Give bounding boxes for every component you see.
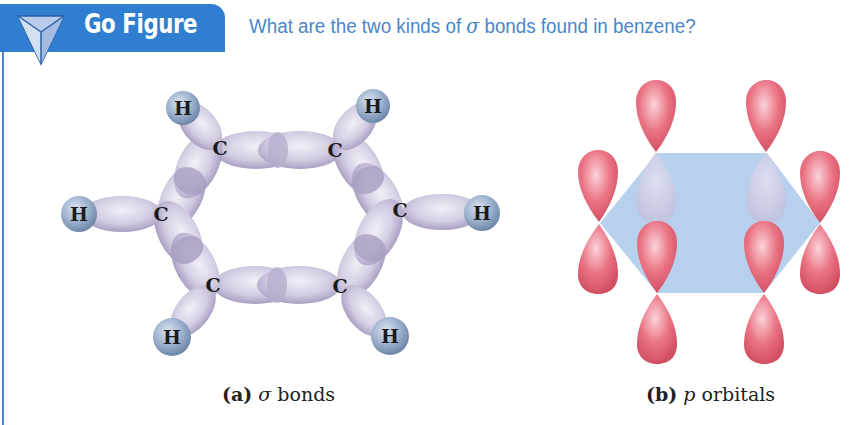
p-orbital-lobe	[637, 294, 677, 364]
carbon-label: C	[327, 139, 342, 161]
hydrogen-atom: H	[61, 196, 97, 232]
carbon-label: C	[153, 203, 168, 225]
svg-text:H: H	[381, 325, 399, 347]
hydrogen-atom: H	[356, 89, 390, 123]
p-orbital-lobe	[746, 80, 786, 152]
caption-b: (b) p orbitals	[646, 383, 775, 405]
svg-text:H: H	[174, 97, 192, 119]
carbon-label: C	[212, 137, 227, 159]
hydrogen-atom: H	[464, 195, 500, 231]
caption-a: (a) σ bonds	[222, 383, 335, 405]
cc-bonds	[144, 124, 414, 307]
caption-a-symbol: σ	[258, 383, 271, 405]
svg-text:H: H	[473, 202, 491, 224]
p-orbital-lobe	[636, 80, 676, 152]
hydrogen-atom: H	[166, 91, 200, 125]
p-orbital-lobe	[744, 294, 784, 364]
caption-b-symbol: p	[683, 383, 695, 405]
hydrogen-atom: H	[371, 317, 409, 355]
caption-b-letter: (b)	[646, 383, 677, 405]
carbon-label: C	[392, 199, 407, 221]
carbon-label: C	[205, 274, 220, 296]
carbon-label: C	[332, 275, 347, 297]
ch-bonds	[82, 94, 482, 345]
svg-text:H: H	[364, 95, 382, 117]
svg-text:H: H	[163, 326, 181, 348]
caption-a-text: bonds	[271, 383, 335, 405]
caption-b-text: orbitals	[695, 383, 775, 405]
svg-text:H: H	[70, 203, 88, 225]
hydrogen-atom: H	[153, 318, 191, 356]
caption-a-letter: (a)	[222, 383, 252, 405]
ring-plane	[600, 153, 820, 293]
benzene-sigma-bonds-diagram: H H H H H H C C C C C C	[0, 0, 862, 425]
p-orbitals-diagram	[578, 80, 840, 364]
